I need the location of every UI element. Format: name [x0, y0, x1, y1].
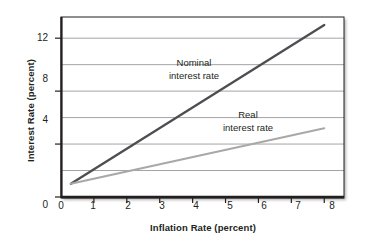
real-annotation-line2: interest rate [196, 122, 300, 135]
real-annotation-line1: Real [196, 109, 300, 122]
y-axis-ticks [55, 38, 61, 197]
x-tick-label-7: 7 [288, 200, 308, 211]
chart-figure: Interest Rate (percent) Inflation Rate (… [0, 0, 376, 241]
x-tick-label-3: 3 [152, 200, 172, 211]
x-tick-label-1: 1 [83, 200, 103, 211]
y-tick-label-0: 0 [26, 199, 48, 210]
y-tick-label-4: 4 [26, 114, 48, 125]
x-tick-label-4: 4 [186, 200, 206, 211]
x-tick-label-5: 5 [220, 200, 240, 211]
x-tick-label-6: 6 [254, 200, 274, 211]
nominal-annotation-line2: interest rate [142, 70, 246, 83]
x-axis-title: Inflation Rate (percent) [61, 222, 345, 233]
y-tick-label-8: 8 [26, 73, 48, 84]
nominal-annotation: Nominal interest rate [142, 57, 246, 82]
nominal-annotation-line1: Nominal [142, 57, 246, 70]
y-axis-title: Interest Rate (percent) [25, 31, 36, 191]
x-tick-label-8: 8 [322, 200, 342, 211]
x-tick-label-2: 2 [118, 200, 138, 211]
real-annotation: Real interest rate [196, 109, 300, 134]
x-tick-label-0: 0 [51, 200, 71, 211]
y-tick-label-12: 12 [26, 32, 48, 43]
